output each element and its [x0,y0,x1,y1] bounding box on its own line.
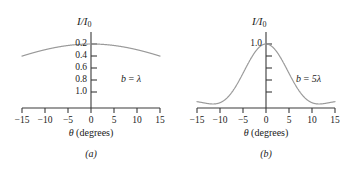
chart-panel-b: I/I0 θ (degrees) b = 5λ (b) 1.0−15−10−50… [175,0,350,169]
y-tick-label-a: 0.8 [59,75,87,85]
y-tick-label-b: 1.0 [234,39,262,49]
panel-caption-b: (b) [246,149,286,159]
annotation-slit-width-a: b = λ [121,74,141,84]
y-tick-label-a: 0.6 [59,63,87,73]
x-axis-title-a: θ (degrees) [49,128,133,138]
x-axis-title-b: θ (degrees) [224,128,308,138]
y-tick-label-a: 1.0 [59,87,87,97]
y-axis-title-b: I/I0 [252,16,266,29]
y-axis-title-a: I/I0 [77,16,91,29]
x-tick-label-b: 15 [321,116,349,126]
figure-single-slit-diffraction: I/I0 θ (degrees) b = λ (a) 0.20.40.60.81… [0,0,350,169]
x-tick-label-a: 15 [146,116,174,126]
annotation-slit-width-b: b = 5λ [296,74,321,84]
chart-panel-a: I/I0 θ (degrees) b = λ (a) 0.20.40.60.81… [0,0,175,169]
y-tick-label-a: 0.4 [59,51,87,61]
y-tick-label-a: 0.2 [59,39,87,49]
panel-caption-a: (a) [71,149,111,159]
